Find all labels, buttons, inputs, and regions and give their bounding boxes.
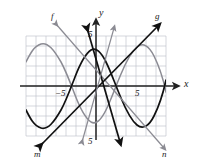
curve-label-g: g: [155, 12, 160, 21]
curve-label-m: m: [34, 150, 41, 159]
y-tick-pos-5: 5: [88, 30, 93, 39]
x-tick-pos-5: 5: [135, 89, 140, 98]
graph-figure: f g m n y x −5 5 5 5: [0, 0, 203, 168]
x-axis-label: x: [184, 79, 188, 89]
x-tick-neg-5: −5: [55, 89, 66, 98]
curve-label-f: f: [51, 12, 54, 21]
y-axis-label: y: [99, 8, 103, 18]
y-tick-neg-5: 5: [88, 137, 93, 146]
curve-label-n: n: [162, 150, 167, 159]
coordinate-plane: [0, 0, 203, 168]
axes: [20, 22, 176, 140]
